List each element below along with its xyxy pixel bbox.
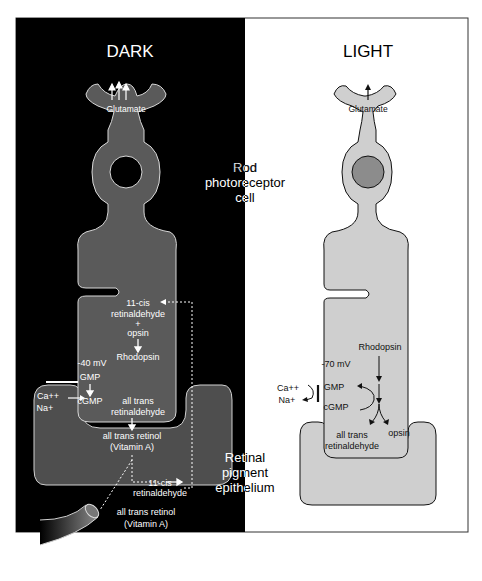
dark-na-label: Na+ (37, 403, 54, 413)
vessel-retinol-label: all trans retinol (117, 507, 176, 517)
dark-title: DARK (106, 42, 154, 61)
dark-all-trans-ald-label-2: retinaldehyde (111, 407, 165, 417)
dark-11cis-label-2: retinaldehyde (111, 309, 165, 319)
dark-11cis-label: 11-cis (126, 298, 150, 308)
vessel-retinol-label-2: (Vitamin A) (124, 519, 168, 529)
rod-phototransduction-diagram: DARK Glutamate 11-cis retinaldehyde + op… (0, 0, 482, 581)
rpe-11cis-label: 11-cis (148, 478, 172, 488)
dark-ca-label: Ca++ (37, 391, 59, 401)
dark-retinol-label-2: (Vitamin A) (110, 442, 154, 452)
light-title: LIGHT (343, 42, 393, 61)
dark-gmp-label: GMP (80, 372, 101, 382)
light-all-trans-label: all trans (336, 430, 368, 440)
light-ca-label: Ca++ (277, 383, 299, 393)
light-voltage-label: -70 mV (321, 359, 350, 369)
dark-rhodopsin-label: Rhodopsin (116, 352, 159, 362)
rpe-11cis-label-2: retinaldehyde (133, 488, 187, 498)
light-rhodopsin-label: Rhodopsin (358, 342, 401, 352)
dark-retinol-label: all trans retinol (103, 431, 162, 441)
light-gmp-label: GMP (324, 382, 345, 392)
dark-voltage-label: -40 mV (77, 358, 106, 368)
light-na-label: Na+ (279, 395, 296, 405)
dark-all-trans-ald-label: all trans (122, 396, 154, 406)
dark-opsin-label: opsin (127, 328, 149, 338)
light-cgmp-label: cGMP (323, 402, 348, 412)
light-opsin-label: opsin (388, 428, 410, 438)
dark-glutamate-label: Glutamate (106, 104, 145, 114)
light-nucleus (352, 156, 384, 188)
dark-nucleus (110, 156, 142, 188)
light-glutamate-label: Glutamate (348, 104, 387, 114)
glutamate-release-arrows (109, 82, 129, 100)
light-all-trans-label-2: retinaldehyde (325, 441, 379, 451)
